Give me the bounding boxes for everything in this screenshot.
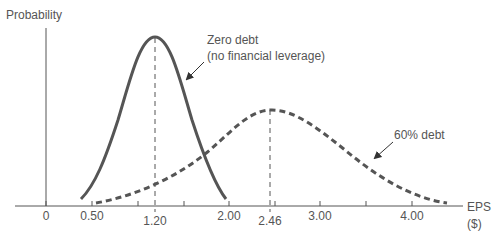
curve-zero-debt bbox=[81, 37, 226, 199]
eps-probability-chart: Probability EPS ($) 0 0.50 1.20 2.00 2.4… bbox=[0, 0, 501, 241]
tick-label-300: 3.00 bbox=[308, 209, 332, 223]
arrow-icon-zero-debt bbox=[187, 62, 204, 79]
tick-label-0: 0 bbox=[43, 209, 50, 223]
annotation-zero-debt-line1: Zero debt bbox=[207, 33, 259, 47]
curve-60-debt bbox=[96, 110, 447, 203]
tick-label-200: 2.00 bbox=[217, 209, 241, 223]
annotation-zero-debt-line2: (no financial leverage) bbox=[207, 49, 325, 63]
arrow-icon-60-debt bbox=[375, 142, 393, 158]
y-axis-label: Probability bbox=[6, 8, 62, 22]
tick-label-120: 1.20 bbox=[143, 214, 167, 228]
tick-label-400: 4.00 bbox=[400, 209, 424, 223]
tick-label-246: 2.46 bbox=[258, 214, 282, 228]
x-axis-label: EPS bbox=[467, 200, 491, 214]
x-axis-unit: ($) bbox=[467, 217, 482, 231]
tick-label-050: 0.50 bbox=[80, 209, 104, 223]
annotation-60-debt: 60% debt bbox=[394, 128, 445, 142]
